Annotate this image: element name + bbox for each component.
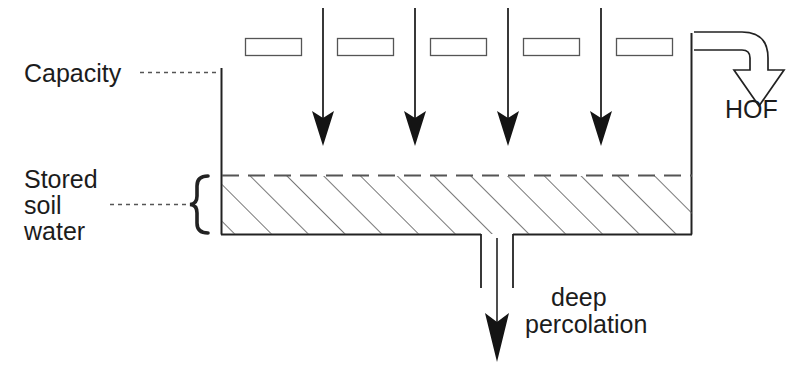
- capacity-label: Capacity: [24, 59, 122, 87]
- diagram-canvas: Capacity Stored soil water HOF deep perc…: [0, 0, 801, 386]
- stored-water-label-line1: Stored: [24, 165, 98, 193]
- curly-brace-icon: [190, 176, 208, 233]
- percolation-label-line1: deep: [551, 283, 607, 311]
- soil-water-diagram: Capacity Stored soil water HOF deep perc…: [0, 0, 801, 386]
- capacity-label-group: Capacity: [24, 59, 220, 87]
- down-arrow-icon: [404, 8, 426, 146]
- stored-water-label-group: Stored soil water: [23, 165, 208, 245]
- canopy-box: [431, 39, 487, 56]
- canopy-box: [338, 39, 394, 56]
- percolation-label-group: deep percolation: [525, 283, 647, 338]
- down-arrow-icon: [590, 8, 612, 146]
- down-arrow-icon: [497, 8, 519, 146]
- stored-water-label-line3: water: [23, 217, 85, 245]
- percolation-label-line2: percolation: [525, 310, 647, 338]
- stored-water-region: [222, 176, 692, 235]
- canopy-box: [524, 39, 580, 56]
- canopy-box: [246, 39, 302, 56]
- canopy-box: [617, 39, 673, 56]
- rain-arrow-group: [312, 8, 612, 146]
- stored-water-label-line2: soil: [24, 191, 62, 219]
- canopy-box-group: [246, 39, 673, 56]
- down-arrow-icon: [312, 8, 334, 146]
- hof-label: HOF: [725, 95, 778, 123]
- percolation-arrow: [485, 238, 509, 362]
